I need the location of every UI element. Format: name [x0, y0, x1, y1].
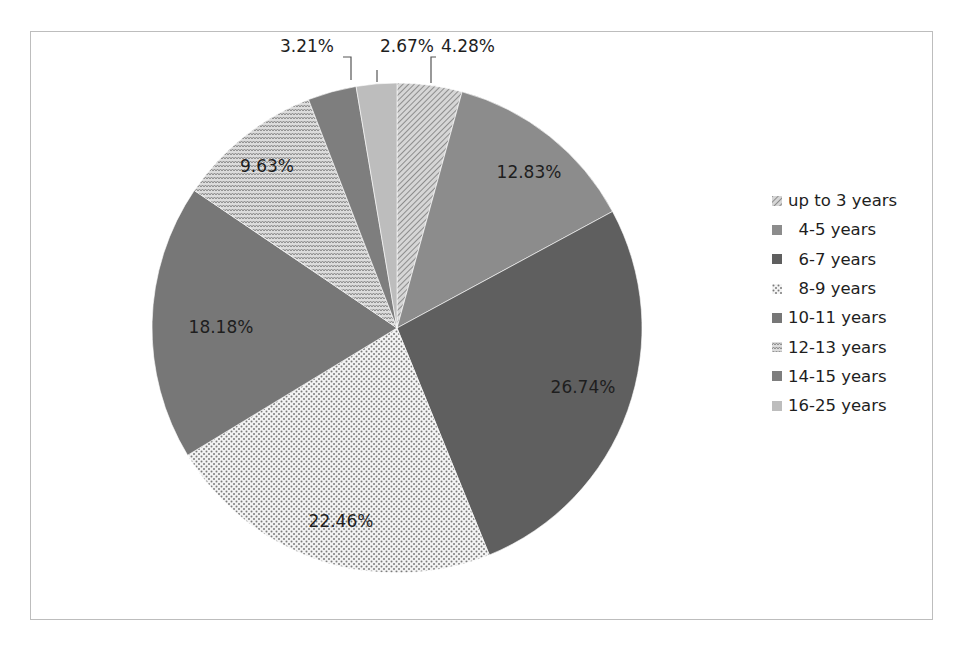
legend-item: 10-11 years	[772, 303, 942, 332]
legend-swatch-icon	[772, 196, 782, 206]
leader-lines	[343, 57, 436, 83]
legend-swatch-icon	[772, 342, 782, 352]
slice-label: 9.63%	[240, 156, 294, 176]
legend-item: up to 3 years	[772, 186, 942, 215]
leader-line-3-21	[343, 57, 351, 80]
legend-item: 6-7 years	[772, 245, 942, 274]
legend-label: 14-15 years	[788, 367, 887, 386]
slice-label: 4.28%	[441, 36, 495, 56]
legend: up to 3 years 4-5 years 6-7 years 8-9 ye…	[772, 186, 942, 420]
slice-label: 18.18%	[189, 317, 254, 337]
legend-label: 10-11 years	[788, 308, 887, 327]
legend-label: up to 3 years	[788, 191, 897, 210]
legend-swatch-icon	[772, 254, 782, 264]
slice-label: 26.74%	[551, 377, 616, 397]
legend-label: 16-25 years	[788, 396, 887, 415]
legend-item: 14-15 years	[772, 362, 942, 391]
leader-line-4-28	[431, 57, 436, 83]
legend-item: 8-9 years	[772, 274, 942, 303]
legend-swatch-icon	[772, 225, 782, 235]
legend-label: 8-9 years	[788, 279, 876, 298]
legend-label: 6-7 years	[788, 250, 876, 269]
legend-swatch-icon	[772, 401, 782, 411]
legend-label: 4-5 years	[788, 220, 876, 239]
legend-item: 12-13 years	[772, 332, 942, 361]
legend-swatch-icon	[772, 313, 782, 323]
legend-label: 12-13 years	[788, 338, 887, 357]
legend-swatch-icon	[772, 284, 782, 294]
legend-item: 4-5 years	[772, 215, 942, 244]
slice-label: 22.46%	[309, 511, 374, 531]
legend-swatch-icon	[772, 371, 782, 381]
legend-item: 16-25 years	[772, 391, 942, 420]
slice-label: 2.67%	[380, 36, 434, 56]
slice-label: 3.21%	[280, 36, 334, 56]
slice-label: 12.83%	[497, 162, 562, 182]
